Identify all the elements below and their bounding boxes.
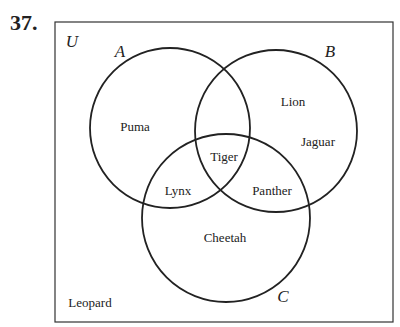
region-c-only: Cheetah <box>204 230 247 246</box>
region-outside: Leopard <box>68 295 111 311</box>
set-c-label: C <box>277 287 288 307</box>
region-b-only-lion: Lion <box>281 94 306 110</box>
universe-label: U <box>66 32 78 52</box>
region-a-only: Puma <box>120 119 150 135</box>
region-ac: Lynx <box>165 183 192 199</box>
region-bc: Panther <box>252 183 292 199</box>
set-b-label: B <box>325 42 335 62</box>
venn-diagram <box>0 0 400 327</box>
set-a-label: A <box>115 42 125 62</box>
universe-box <box>55 22 393 322</box>
region-abc: Tiger <box>210 149 238 165</box>
region-b-only-jaguar: Jaguar <box>301 134 335 150</box>
